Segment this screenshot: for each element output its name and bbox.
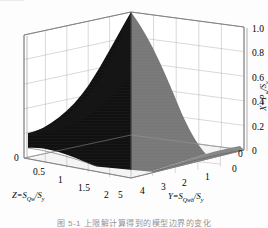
origin-tick-right: 0 bbox=[238, 149, 243, 159]
x-label-sub1: Qw bbox=[27, 196, 35, 202]
z-tick-0: 1.0 bbox=[252, 24, 264, 34]
origin-tick-left: 0 bbox=[14, 153, 19, 163]
z-label-sub2: y bbox=[264, 81, 268, 85]
y-tick-2: 3 bbox=[161, 182, 166, 192]
y-tick-0: 5 bbox=[118, 190, 123, 200]
y-axis-label: Y=SQwb/Sy bbox=[168, 191, 204, 203]
y-label-lead: Y=S bbox=[168, 191, 183, 201]
svg-text:X=Pw/Sy: X=Pw/Sy bbox=[258, 81, 268, 112]
x-tick-2: 1 bbox=[58, 175, 63, 185]
z-tick-4: 0.2 bbox=[252, 122, 264, 132]
x-tick-3: 1.5 bbox=[78, 183, 90, 193]
x-tick-4: 2 bbox=[104, 190, 109, 200]
x-axis-label: Z=SQw/Sy bbox=[12, 190, 45, 202]
z-tick-1: 0.8 bbox=[252, 48, 264, 58]
x-label-sub2: y bbox=[41, 196, 45, 202]
y-tick-3: 2 bbox=[182, 178, 187, 188]
z-axis-label: X=Pw/Sy bbox=[258, 81, 268, 112]
y-label-sub2: y bbox=[200, 197, 204, 203]
surface-plot: 1.0 0.8 0.6 0.4 0.2 0 X=Pw/Sy 0 0.5 1 1.… bbox=[0, 0, 268, 228]
z-tick-5: 0 bbox=[252, 146, 257, 156]
figure-caption: 图 5-1 上限解计算得到的模型边界的变化 bbox=[0, 217, 268, 228]
y-tick-5: 0 bbox=[232, 164, 237, 174]
x-tick-1: 0.5 bbox=[33, 167, 45, 177]
y-label-sub1: Qwb bbox=[183, 197, 194, 203]
y-tick-1: 4 bbox=[140, 186, 145, 196]
figure-root: 1.0 0.8 0.6 0.4 0.2 0 X=Pw/Sy 0 0.5 1 1.… bbox=[0, 0, 268, 228]
z-label-lead: X=P bbox=[258, 95, 268, 112]
x-label-lead: Z=S bbox=[12, 190, 27, 200]
z-tick-2: 0.6 bbox=[252, 73, 264, 83]
y-tick-4: 1 bbox=[205, 172, 210, 182]
